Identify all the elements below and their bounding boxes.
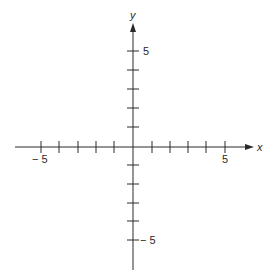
y-axis-arrow-icon bbox=[130, 23, 136, 32]
coordinate-plane-figure: x y − 5 5 5 − 5 bbox=[0, 0, 276, 278]
x-axis-arrow-icon bbox=[245, 144, 254, 150]
coordinate-plane: x y − 5 5 5 − 5 bbox=[0, 0, 276, 278]
y-tick-label-5: 5 bbox=[143, 45, 149, 57]
x-tick-label-5: 5 bbox=[222, 153, 228, 165]
x-axis-label: x bbox=[256, 141, 263, 153]
x-tick-label-neg5: − 5 bbox=[32, 153, 48, 165]
y-tick-label-neg5: − 5 bbox=[140, 234, 156, 246]
y-axis-label: y bbox=[129, 9, 137, 21]
